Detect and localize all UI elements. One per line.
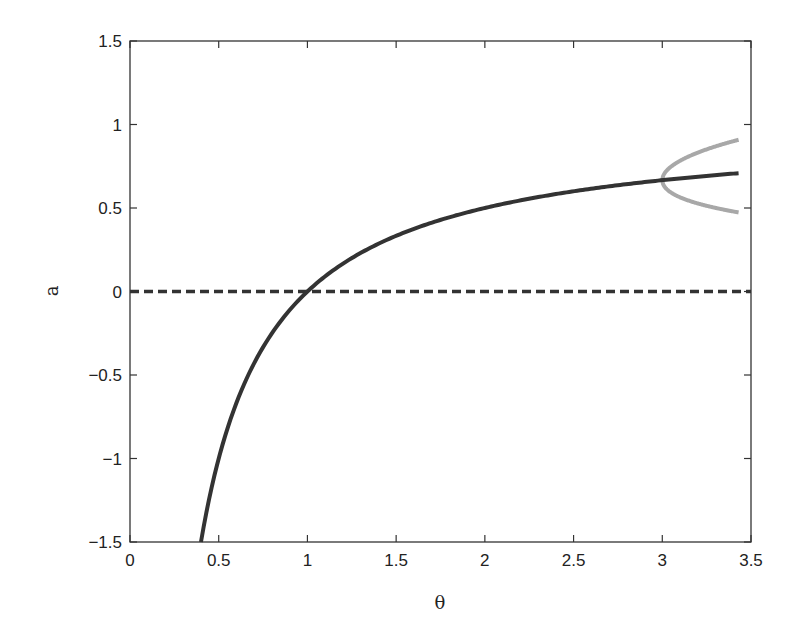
y-tick-label: 0 [113, 283, 122, 302]
y-tick-label: 1 [113, 116, 122, 135]
y-tick-label: −0.5 [88, 366, 122, 385]
bifurcation-chart: 00.511.522.533.5−1.5−1−0.500.511.5 θ a [0, 0, 800, 637]
ticks-layer: 00.511.522.533.5−1.5−1−0.500.511.5 [88, 32, 762, 570]
x-axis-label: θ [435, 592, 446, 613]
x-tick-label: 1.5 [384, 551, 408, 570]
nontrivial-branch-curve [201, 173, 739, 542]
x-tick-label: 0 [125, 551, 134, 570]
x-tick-label: 3 [658, 551, 667, 570]
y-tick-label: 0.5 [98, 199, 122, 218]
x-tick-label: 3.5 [739, 551, 763, 570]
y-tick-label: −1 [103, 450, 122, 469]
series-layer [130, 140, 751, 542]
x-tick-label: 1 [303, 551, 312, 570]
x-tick-label: 2 [480, 551, 489, 570]
x-tick-label: 0.5 [207, 551, 231, 570]
period-two-lower-curve [662, 180, 738, 212]
x-tick-label: 2.5 [562, 551, 586, 570]
y-tick-label: −1.5 [88, 533, 122, 552]
y-axis-label: a [41, 285, 62, 296]
y-tick-label: 1.5 [98, 32, 122, 51]
